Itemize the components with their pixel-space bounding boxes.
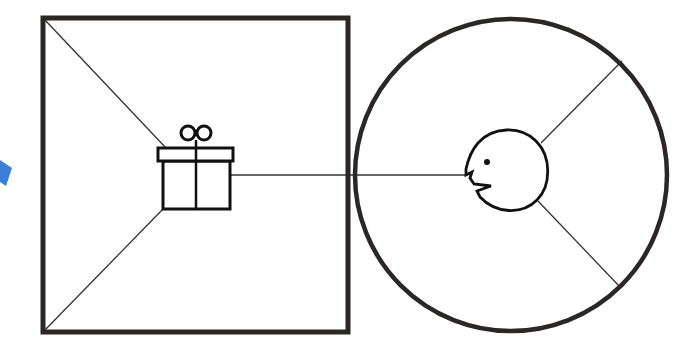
diagram-svg bbox=[0, 0, 697, 355]
gift-bow-left bbox=[181, 126, 195, 140]
square-top-left-to-gift bbox=[45, 20, 166, 148]
square-bottom-left-to-gift bbox=[45, 209, 163, 330]
gift-icon bbox=[158, 126, 233, 209]
blue-arrow-icon bbox=[0, 160, 12, 186]
diagram-canvas bbox=[0, 0, 697, 355]
face-eye bbox=[484, 159, 490, 165]
gift-bow-right bbox=[197, 126, 211, 140]
face-profile-icon bbox=[466, 130, 548, 211]
face-to-circle-lower-right bbox=[538, 201, 620, 287]
face-to-circle-upper-right bbox=[541, 61, 622, 143]
face-outline bbox=[466, 130, 548, 211]
